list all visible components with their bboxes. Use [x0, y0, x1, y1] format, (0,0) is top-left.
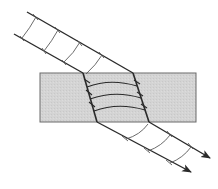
emergent-wavefronts	[122, 124, 193, 165]
diagram-canvas	[0, 0, 218, 189]
emergent-ray-upper	[149, 122, 210, 158]
incident-rays	[14, 12, 133, 73]
refraction-diagram: Refraction of a wave beam through a para…	[0, 0, 218, 189]
emergent-ray-lower	[97, 122, 191, 172]
emergent-rays	[97, 122, 210, 172]
glass-slab	[40, 73, 196, 122]
